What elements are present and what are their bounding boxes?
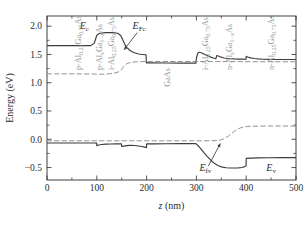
x-tick-label: 100 xyxy=(90,183,105,193)
layer-n-AlGaAs-x: n-AlxGa1−xAs xyxy=(225,24,235,70)
y-tick-label: 1.5 xyxy=(30,50,42,60)
x-tick-label: 300 xyxy=(189,183,204,193)
x-tick-label: 200 xyxy=(139,183,154,193)
Ev-label: Ev xyxy=(265,162,276,175)
x-tick-label: 400 xyxy=(239,183,254,193)
y-axis-label: Energy (eV) xyxy=(4,73,16,123)
y-tick-label: 0.0 xyxy=(30,135,42,145)
x-tick-label: 0 xyxy=(45,183,50,193)
band-diagram-figure: 0100200300400500−0.50.00.51.01.52.0z (nm… xyxy=(0,0,306,225)
layer-i-AlGaAs-025: i-Al0.25Ga0.75As xyxy=(107,17,117,70)
EFc-arrow xyxy=(124,33,137,50)
y-tick-label: −0.5 xyxy=(25,163,42,173)
EFc-label: EFc xyxy=(132,20,146,33)
x-tick-label: 500 xyxy=(289,183,304,193)
series-e-fv xyxy=(47,126,296,141)
x-axis-label: z (nm) xyxy=(158,200,185,212)
series-e-c xyxy=(47,33,296,64)
y-tick-label: 2.0 xyxy=(30,21,42,31)
layer-p-AlGaAs-025: p-Al0.25Ga0.75As xyxy=(74,15,84,70)
series-e-v xyxy=(47,143,296,168)
layer-i-AlGaAs-025-right: i-Al0.25Ga0.75As xyxy=(201,17,211,70)
plot-frame xyxy=(47,16,296,180)
band-diagram-svg: 0100200300400500−0.50.00.51.01.52.0z (nm… xyxy=(0,0,306,225)
layer-n-AlGaAs-025: n-Al0.25Ga0.75As xyxy=(267,15,277,70)
layer-GaAs: GaAs xyxy=(163,68,172,87)
layer-p-AlGaAs-x: p-AlxGa1−xAs xyxy=(95,24,105,70)
y-tick-label: 1.0 xyxy=(30,78,42,88)
y-tick-label: 0.5 xyxy=(30,106,42,116)
